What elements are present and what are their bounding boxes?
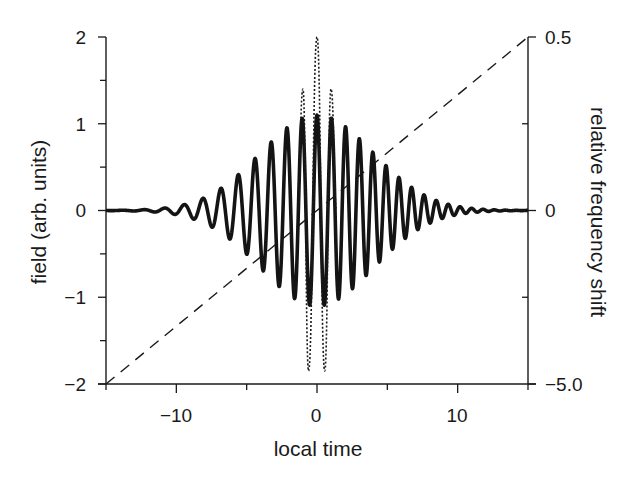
y-right-tick-label: 0.5 [545,27,571,48]
y-right-tick-label: −5.0 [545,374,583,395]
y-tick-label: 2 [75,27,86,48]
x-tick-labels: −10 0 10 [160,405,468,426]
y-right-tick-labels: 0.5 0 −5.0 [545,27,583,395]
y-axis-title: field (arb. units) [27,140,50,285]
y-tick-label: 0 [75,200,86,221]
x-tick-label: −10 [160,405,192,426]
y-right-axis-title: relative frequency shift [587,107,610,317]
x-tick-label: 0 [311,405,322,426]
y-tick-label: −2 [64,374,86,395]
tick-marks [98,37,536,393]
chirped-pulse-chart: 2 1 0 −1 −2 0.5 0 −5.0 −10 0 10 local ti… [0,0,636,484]
y-tick-label: 1 [75,114,86,135]
x-tick-label: 10 [446,405,467,426]
x-axis-title: local time [274,437,363,460]
y-tick-label: −1 [64,287,86,308]
compressed-pulse-dotted-curve [297,37,336,371]
y-right-tick-label: 0 [545,200,556,221]
y-tick-labels: 2 1 0 −1 −2 [64,27,86,395]
